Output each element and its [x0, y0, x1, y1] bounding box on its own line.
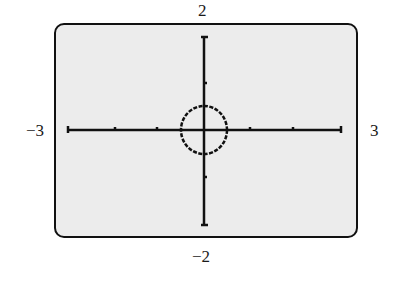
- xmin-label: −3: [26, 122, 44, 139]
- xmax-label: 3: [370, 122, 379, 139]
- ymin-label: −2: [192, 248, 210, 265]
- ymax-label: 2: [198, 2, 207, 19]
- graph-plot: [0, 0, 395, 282]
